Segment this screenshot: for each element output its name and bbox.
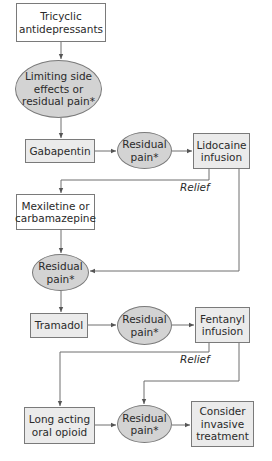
node-residual-pain-2: Residual pain* (32, 254, 89, 291)
node-label: Residual pain* (122, 138, 166, 163)
node-lidocaine-infusion: Lidocaine infusion (193, 133, 250, 169)
edge-lidocaine-residual2 (90, 169, 239, 271)
node-label: Gabapentin (29, 145, 90, 158)
node-tricyclic-antidepressants: Tricyclic antidepressants (16, 3, 106, 42)
node-label: Consider invasive treatment (196, 405, 249, 443)
node-label: Limiting side effects or residual pain* (22, 70, 95, 108)
node-fentanyl-infusion: Fentanyl infusion (195, 307, 250, 343)
node-gabapentin: Gabapentin (25, 139, 95, 163)
node-label: Residual pain* (38, 260, 82, 285)
node-label: Mexiletine or carbamazepine (15, 200, 96, 225)
node-residual-pain-1: Residual pain* (117, 132, 172, 169)
node-residual-pain-4: Residual pain* (117, 405, 172, 443)
node-label: Tricyclic antidepressants (19, 10, 103, 35)
node-label: Lidocaine infusion (196, 139, 246, 164)
node-consider-invasive-treatment: Consider invasive treatment (191, 401, 254, 447)
node-mexiletine-carbamazepine: Mexiletine or carbamazepine (16, 194, 95, 230)
node-label: Long acting oral opioid (29, 413, 90, 438)
node-limiting-side-effects: Limiting side effects or residual pain* (15, 60, 102, 118)
edge-label-relief-1: Relief (180, 181, 210, 193)
node-label: Residual pain* (122, 313, 166, 338)
edge-label-relief-2: Relief (180, 353, 210, 365)
node-label: Tramadol (35, 319, 83, 332)
node-long-acting-oral-opioid: Long acting oral opioid (24, 407, 95, 444)
node-residual-pain-3: Residual pain* (117, 306, 172, 345)
node-label: Residual pain* (122, 412, 166, 437)
node-tramadol: Tramadol (30, 313, 88, 338)
node-label: Fentanyl infusion (200, 313, 245, 338)
